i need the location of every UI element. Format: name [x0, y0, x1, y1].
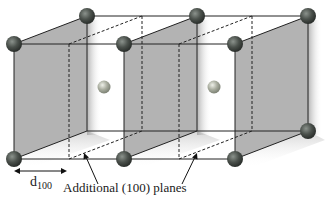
corner-atom	[227, 36, 243, 52]
corner-atom	[300, 8, 316, 24]
corner-atom	[116, 36, 132, 52]
center-atom	[98, 81, 111, 94]
additional-planes-label: Additional (100) planes	[63, 180, 186, 195]
corner-atom	[6, 36, 22, 52]
lattice-planes	[14, 16, 308, 159]
center-atom	[208, 81, 221, 94]
corner-atom	[79, 8, 95, 24]
corner-atom	[227, 151, 243, 167]
spacing-label: d100	[30, 174, 52, 191]
bcc-lattice-diagram: d100 Additional (100) planes	[0, 0, 325, 199]
corner-atom	[116, 151, 132, 167]
diagram-canvas: d100 Additional (100) planes	[0, 0, 325, 199]
spacing-arrow	[14, 168, 67, 174]
corner-atom	[300, 123, 316, 139]
corner-atom	[6, 151, 22, 167]
corner-atom	[189, 8, 205, 24]
